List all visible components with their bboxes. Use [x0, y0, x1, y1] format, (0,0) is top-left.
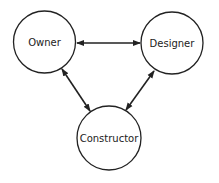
node-constructor: Constructor	[77, 106, 141, 170]
node-designer: Designer	[141, 12, 203, 74]
relationship-diagram: Owner Designer Constructor	[0, 0, 219, 183]
node-label-owner: Owner	[28, 37, 62, 48]
node-label-designer: Designer	[150, 38, 196, 49]
node-owner: Owner	[14, 11, 76, 73]
edge-designer-constructor	[126, 71, 154, 110]
node-label-constructor: Constructor	[80, 133, 140, 144]
edge-owner-constructor	[62, 69, 90, 111]
